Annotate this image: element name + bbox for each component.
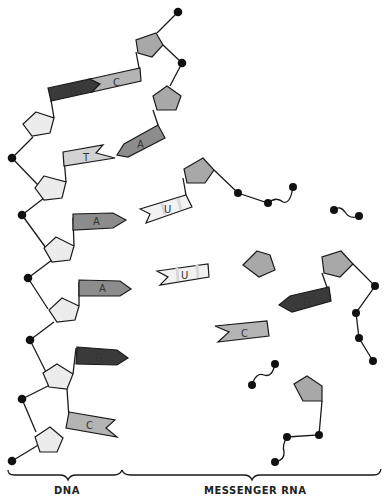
base-a-2: A xyxy=(79,280,131,296)
dna-label: DNA xyxy=(54,485,80,496)
svg-text:U: U xyxy=(181,270,188,281)
base-g-top: G xyxy=(48,79,100,101)
base-g-right: G xyxy=(279,287,331,312)
sugar-6 xyxy=(35,427,63,452)
base-c-bottom: C xyxy=(66,412,117,437)
base-g-left: G xyxy=(76,347,128,365)
sugar-5 xyxy=(43,364,73,389)
base-c-free: C xyxy=(215,321,269,342)
messenger-rna-label: MESSENGER RNA xyxy=(204,485,306,496)
free-phosphates-2 xyxy=(248,360,279,389)
base-u-1: U xyxy=(140,195,192,223)
rna-fragment-3 xyxy=(271,376,323,466)
dna-transcription-diagram: G C T A A U A xyxy=(0,0,388,498)
svg-text:G: G xyxy=(95,352,103,363)
complementary-strand xyxy=(136,8,186,125)
rna-sugar-1 xyxy=(184,158,214,183)
sugar-3 xyxy=(44,237,74,262)
svg-text:A: A xyxy=(137,139,144,150)
base-t: T xyxy=(63,145,115,166)
rna-sugar-2 xyxy=(322,251,353,277)
free-phosphates-1 xyxy=(330,206,363,220)
svg-text:G: G xyxy=(303,296,311,307)
base-a-1: A xyxy=(73,213,126,230)
free-sugar xyxy=(243,251,275,277)
svg-text:A: A xyxy=(93,216,100,227)
svg-text:C: C xyxy=(241,328,248,339)
sugar-1 xyxy=(23,112,54,136)
rna-sugar-top-2 xyxy=(153,86,181,110)
sugar-4 xyxy=(49,298,79,322)
base-c-top: C xyxy=(90,68,141,92)
base-a-pair: A xyxy=(117,125,165,157)
svg-text:C: C xyxy=(86,420,93,431)
rna-brace xyxy=(122,469,381,480)
rna-fragment-2 xyxy=(322,251,379,365)
svg-text:A: A xyxy=(99,283,106,294)
svg-text:G: G xyxy=(70,86,78,97)
svg-text:U: U xyxy=(164,204,171,215)
base-u-2: U xyxy=(157,264,209,285)
sugar-2 xyxy=(35,176,66,200)
dna-brace xyxy=(8,470,122,480)
rna-fragment-1 xyxy=(183,158,297,207)
svg-text:T: T xyxy=(82,152,90,163)
svg-text:C: C xyxy=(113,77,120,88)
rna-sugar-3 xyxy=(294,376,322,401)
rna-sugar-top xyxy=(136,33,163,57)
